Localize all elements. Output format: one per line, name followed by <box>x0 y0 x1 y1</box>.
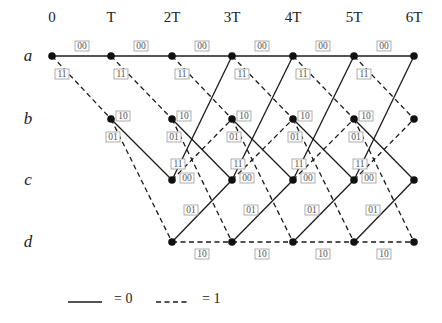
edge-a-to-b <box>354 56 414 119</box>
edge-d-to-c <box>232 180 293 242</box>
edge-output-label: 00 <box>75 41 89 51</box>
state-label-c: c <box>24 170 32 189</box>
svg-text:00: 00 <box>242 173 252 183</box>
svg-text:01: 01 <box>246 205 256 215</box>
svg-text:11: 11 <box>173 159 182 169</box>
svg-text:01: 01 <box>229 132 239 142</box>
state-node-a-t3 <box>228 52 236 60</box>
svg-text:11: 11 <box>237 69 246 79</box>
state-node-b-t6 <box>410 115 418 123</box>
state-node-c-t2 <box>168 176 176 184</box>
trellis-diagram: 0T2T3T4T5T6T abcd 0011001110010011100111… <box>0 0 442 323</box>
state-node-a-t5 <box>350 52 358 60</box>
state-node-a-t4 <box>289 52 297 60</box>
state-node-d-t5 <box>350 238 358 246</box>
state-node-d-t6 <box>410 238 418 246</box>
legend: = 0 = 1 <box>68 291 220 306</box>
edge-output-label: 11 <box>292 159 306 169</box>
edge-a-to-b <box>232 56 293 119</box>
state-node-d-t2 <box>168 238 176 246</box>
svg-text:00: 00 <box>364 173 374 183</box>
state-label-a: a <box>24 46 33 65</box>
state-node-c-t6 <box>410 176 418 184</box>
edge-output-label: 01 <box>167 132 181 142</box>
edge-output-label: 10 <box>195 249 209 259</box>
edge-output-label: 11 <box>231 159 245 169</box>
svg-text:10: 10 <box>318 249 328 259</box>
edge-output-label: 11 <box>235 69 249 79</box>
time-label: 2T <box>164 9 181 25</box>
edge-output-label: 11 <box>171 159 185 169</box>
state-node-b-t5 <box>350 115 358 123</box>
svg-text:10: 10 <box>257 249 267 259</box>
edge-output-label: 10 <box>298 111 312 121</box>
edge-output-label: 01 <box>305 205 319 215</box>
svg-text:00: 00 <box>257 41 267 51</box>
state-node-b-t4 <box>289 115 297 123</box>
svg-text:11: 11 <box>294 159 303 169</box>
svg-text:10: 10 <box>197 249 207 259</box>
state-node-c-t5 <box>350 176 358 184</box>
state-node-b-t1 <box>107 115 115 123</box>
edge-d-to-c <box>172 180 232 242</box>
state-node-d-t3 <box>228 238 236 246</box>
svg-text:00: 00 <box>136 41 146 51</box>
time-axis-labels: 0T2T3T4T5T6T <box>48 9 422 25</box>
edge-output-label: 01 <box>244 205 258 215</box>
edge-a-to-b <box>52 56 111 119</box>
edge-a-to-b <box>111 56 172 119</box>
state-node-c-t3 <box>228 176 236 184</box>
edge-output-label: 00 <box>255 41 269 51</box>
state-node-a-t2 <box>168 52 176 60</box>
edge-output-label: 00 <box>195 41 209 51</box>
time-label: 6T <box>406 9 423 25</box>
svg-text:11: 11 <box>359 69 368 79</box>
edge-output-label: 00 <box>240 173 254 183</box>
svg-text:00: 00 <box>379 41 389 51</box>
svg-text:01: 01 <box>108 132 118 142</box>
edge-output-label: 01 <box>349 132 363 142</box>
svg-text:11: 11 <box>233 159 242 169</box>
state-node-b-t2 <box>168 115 176 123</box>
state-node-a-t1 <box>107 52 115 60</box>
edge-output-label: 10 <box>237 111 251 121</box>
svg-text:01: 01 <box>307 205 317 215</box>
svg-text:00: 00 <box>77 41 87 51</box>
trellis-nodes <box>48 52 418 246</box>
edge-output-label: 00 <box>316 41 330 51</box>
svg-text:11: 11 <box>116 69 125 79</box>
state-node-d-t4 <box>289 238 297 246</box>
legend-solid-label: = 0 <box>114 291 132 306</box>
edge-output-label: 11 <box>55 69 69 79</box>
state-node-a-t6 <box>410 52 418 60</box>
svg-text:01: 01 <box>186 205 196 215</box>
edge-d-to-c <box>354 180 414 242</box>
svg-text:00: 00 <box>303 173 313 183</box>
svg-text:00: 00 <box>318 41 328 51</box>
state-label-b: b <box>24 109 33 128</box>
svg-text:10: 10 <box>179 111 189 121</box>
edge-output-label: 00 <box>377 41 391 51</box>
edge-output-label: 11 <box>114 69 128 79</box>
state-node-c-t4 <box>289 176 297 184</box>
edge-output-label: 00 <box>134 41 148 51</box>
edge-output-label: 10 <box>316 249 330 259</box>
legend-dashed-label: = 1 <box>202 291 220 306</box>
edge-output-label: 01 <box>288 132 302 142</box>
svg-text:01: 01 <box>290 132 300 142</box>
svg-text:00: 00 <box>197 41 207 51</box>
edge-output-label: 01 <box>227 132 241 142</box>
svg-text:00: 00 <box>182 173 192 183</box>
svg-text:01: 01 <box>169 132 179 142</box>
svg-text:01: 01 <box>368 205 378 215</box>
edge-output-label: 10 <box>377 249 391 259</box>
edge-output-label: 01 <box>366 205 380 215</box>
edge-output-label: 10 <box>177 111 191 121</box>
svg-text:11: 11 <box>355 159 364 169</box>
edge-output-label: 00 <box>180 173 194 183</box>
edge-output-label: 00 <box>362 173 376 183</box>
edge-output-label: 11 <box>357 69 371 79</box>
svg-text:10: 10 <box>379 249 389 259</box>
time-label: 0 <box>48 9 56 25</box>
edge-output-label: 01 <box>184 205 198 215</box>
